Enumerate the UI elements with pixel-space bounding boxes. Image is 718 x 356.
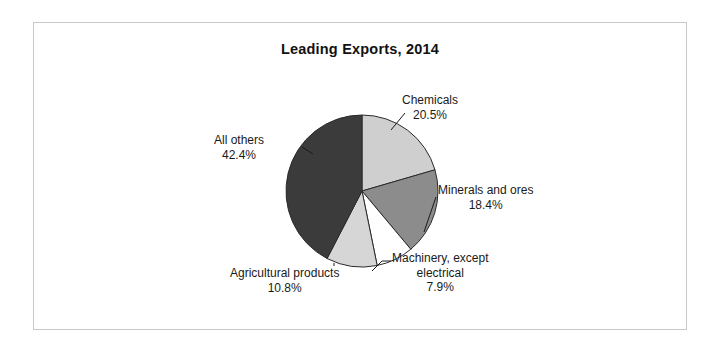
pie-label-chemicals-value: 20.5% (402, 108, 458, 123)
pie-label-agricultural-products: Agricultural products 10.8% (230, 266, 339, 295)
pie-label-all-others: All others 42.4% (214, 133, 264, 162)
chart-page: Leading Exports, 2014 (0, 0, 718, 356)
pie-label-minerals-and-ores: Minerals and ores 18.4% (438, 183, 533, 212)
pie-chart: Chemicals 20.5% Minerals and ores 18.4% … (34, 23, 688, 331)
pie-label-all-others-name: All others (214, 133, 264, 147)
pie-slices (286, 115, 438, 267)
pie-label-agricultural-products-value: 10.8% (230, 281, 339, 296)
pie-label-chemicals: Chemicals 20.5% (402, 93, 458, 122)
pie-label-machinery-name-line1: Machinery, except (392, 251, 489, 265)
pie-label-machinery-value: 7.9% (392, 280, 489, 295)
pie-label-minerals-and-ores-value: 18.4% (438, 198, 533, 213)
pie-label-minerals-and-ores-name: Minerals and ores (438, 183, 533, 197)
pie-label-agricultural-products-name: Agricultural products (230, 266, 339, 280)
pie-label-machinery-name-line2: electrical (392, 266, 489, 281)
chart-frame: Leading Exports, 2014 (33, 22, 687, 330)
pie-label-chemicals-name: Chemicals (402, 93, 458, 107)
pie-label-all-others-value: 42.4% (214, 148, 264, 163)
pie-label-machinery-except-electrical: Machinery, except electrical 7.9% (392, 251, 489, 295)
pie-chart-svg (34, 23, 688, 331)
